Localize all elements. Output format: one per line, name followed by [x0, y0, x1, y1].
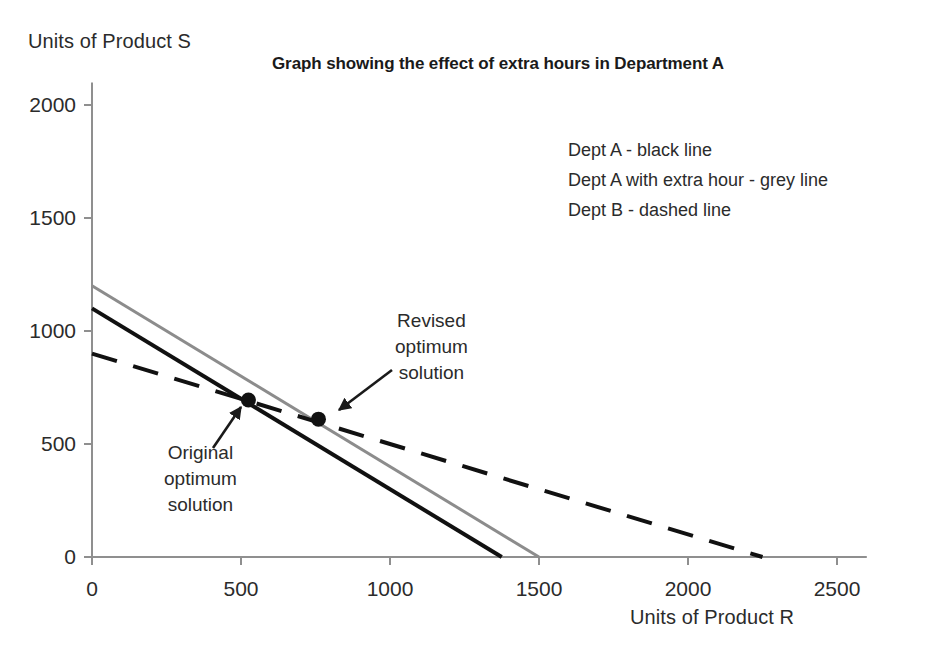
x-tick-label: 1500: [516, 577, 563, 601]
y-tick-label: 500: [41, 432, 76, 456]
optimum-point: [311, 412, 326, 427]
plot-area: [0, 0, 950, 655]
arrow-original-optimum: [213, 407, 241, 448]
y-tick-label: 2000: [29, 93, 76, 117]
series-line: [92, 308, 502, 557]
x-tick-label: 2500: [814, 577, 861, 601]
optimum-points: [241, 392, 326, 426]
axes: [84, 82, 867, 565]
data-series: [92, 286, 763, 557]
x-tick-label: 1000: [367, 577, 414, 601]
x-tick-label: 2000: [665, 577, 712, 601]
series-line: [92, 354, 763, 557]
y-tick-label: 1500: [29, 206, 76, 230]
x-axis-title: Units of Product R: [630, 606, 794, 629]
x-tick-label: 500: [223, 577, 258, 601]
chart-container: Units of Product S Graph showing the eff…: [0, 0, 950, 655]
y-tick-label: 0: [64, 545, 76, 569]
x-tick-label: 0: [86, 577, 98, 601]
optimum-point: [241, 392, 256, 407]
arrow-revised-optimum: [339, 370, 392, 410]
y-tick-label: 1000: [29, 319, 76, 343]
